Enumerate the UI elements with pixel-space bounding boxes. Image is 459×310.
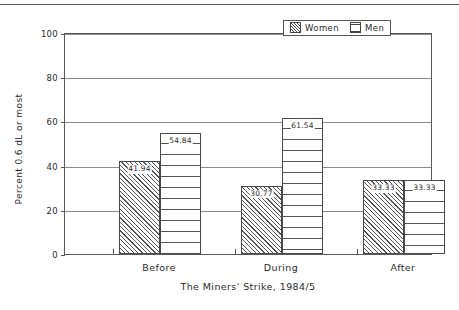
xtick-label-before: Before [142, 262, 175, 273]
header-divider [0, 4, 459, 5]
bar-value-during-women: 30.77 [249, 190, 273, 198]
bars-layer: 41.94 54.84 30.77 61.54 33.33 33.33 [65, 34, 431, 254]
bar-before-women[interactable]: 41.94 [119, 161, 160, 254]
ytick-label-0: 0 [52, 250, 58, 260]
bar-value-before-women: 41.94 [127, 165, 151, 173]
y-axis-title: Percent 0.6 dL or most [14, 34, 24, 264]
bar-during-men[interactable]: 61.54 [282, 118, 323, 254]
bar-during-women[interactable]: 30.77 [241, 186, 282, 254]
ytick-label-20: 20 [47, 206, 58, 216]
x-axis-title: The Miners' Strike, 1984/5 [180, 281, 315, 292]
bar-value-after-women: 33.33 [371, 184, 395, 192]
legend-label-women: Women [305, 23, 339, 33]
x-separator-2 [235, 249, 236, 254]
ytick-label-100: 100 [41, 29, 58, 39]
ytick-label-80: 80 [47, 73, 58, 83]
plot-area: 100 80 60 40 20 0 41.94 54.84 [64, 33, 432, 255]
xtick-label-during: During [264, 262, 298, 273]
x-separator-3 [357, 249, 358, 254]
diagonal-hatch-swatch-icon [290, 22, 301, 33]
legend-label-men: Men [365, 23, 384, 33]
legend-item-women: Women [290, 22, 339, 33]
legend-item-men: Men [350, 22, 384, 33]
ytick-mark-0 [61, 255, 65, 256]
bar-before-men[interactable]: 54.84 [160, 133, 201, 254]
bar-value-during-men: 61.54 [290, 122, 314, 130]
bar-chart: Women Men 100 80 60 40 20 0 [0, 0, 459, 310]
x-separator-1 [113, 249, 114, 254]
bar-after-men[interactable]: 33.33 [404, 180, 445, 254]
ytick-label-40: 40 [47, 162, 58, 172]
xtick-label-after: After [391, 262, 416, 273]
bar-after-women[interactable]: 33.33 [363, 180, 404, 254]
ytick-label-60: 60 [47, 117, 58, 127]
bar-value-before-men: 54.84 [168, 137, 192, 145]
horizontal-hatch-swatch-icon [350, 22, 361, 33]
bar-value-after-men: 33.33 [412, 184, 436, 192]
chart-legend: Women Men [283, 20, 391, 36]
